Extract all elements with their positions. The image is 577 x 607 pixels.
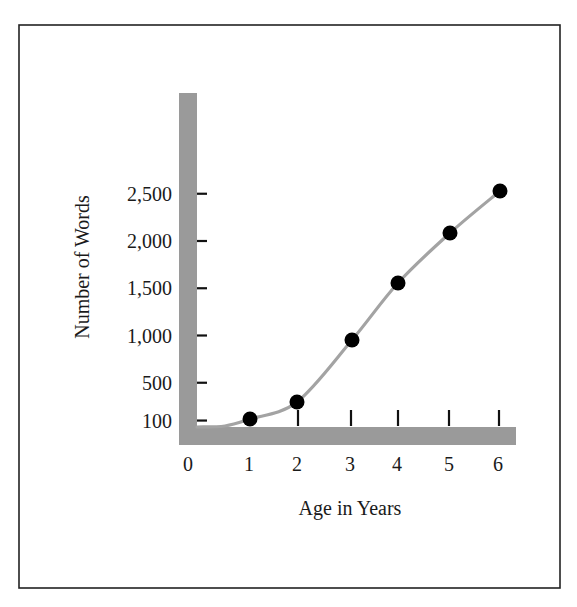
data-point-marker	[243, 412, 258, 427]
y-tick-label: 1,000	[127, 325, 172, 347]
y-tick-label: 100	[142, 410, 172, 432]
x-tick-label: 6	[493, 453, 503, 475]
x-tick-label: 0	[183, 453, 193, 475]
y-axis-ticks	[197, 194, 207, 421]
chart: 1005001,0001,5002,0002,500 0123456 Age i…	[0, 0, 577, 607]
data-curve	[197, 191, 500, 427]
data-point-marker	[345, 333, 360, 348]
y-tick-label: 500	[142, 372, 172, 394]
x-tick-label: 4	[392, 453, 402, 475]
y-axis-tick-labels: 1005001,0001,5002,0002,500	[127, 183, 172, 432]
x-tick-label: 5	[444, 453, 454, 475]
data-point-marker	[391, 276, 406, 291]
x-axis-tick-labels: 0123456	[183, 453, 503, 475]
x-axis-bar	[179, 427, 516, 445]
chart-frame	[19, 25, 560, 588]
data-point-marker	[290, 395, 305, 410]
data-point-marker	[493, 184, 508, 199]
y-axis-title: Number of Words	[71, 195, 93, 339]
x-axis-ticks	[298, 410, 499, 426]
y-tick-label: 2,000	[127, 230, 172, 252]
y-tick-label: 1,500	[127, 277, 172, 299]
data-point-marker	[443, 226, 458, 241]
y-axis-bar	[179, 93, 197, 445]
x-tick-label: 3	[345, 453, 355, 475]
x-tick-label: 2	[292, 453, 302, 475]
y-tick-label: 2,500	[127, 183, 172, 205]
data-markers	[243, 184, 508, 427]
x-axis-title: Age in Years	[299, 497, 402, 520]
x-tick-label: 1	[244, 453, 254, 475]
